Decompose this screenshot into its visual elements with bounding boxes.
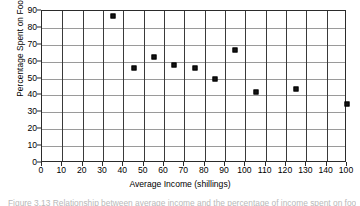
vertical-gridline (123, 11, 124, 161)
vertical-gridline (205, 11, 206, 161)
horizontal-gridline (42, 28, 345, 29)
vertical-gridline (83, 11, 84, 161)
x-axis-tick-mark (143, 162, 144, 166)
x-axis-tick-mark (224, 162, 225, 166)
vertical-gridline (306, 11, 307, 161)
data-point (345, 101, 350, 106)
horizontal-gridline (42, 79, 345, 80)
x-axis-tick-mark (163, 162, 164, 166)
vertical-gridline (144, 11, 145, 161)
data-point (172, 63, 177, 68)
x-axis-tick-mark (204, 162, 205, 166)
x-axis-tick-mark (305, 162, 306, 166)
data-point (192, 66, 197, 71)
vertical-gridline (62, 11, 63, 161)
horizontal-gridline (42, 129, 345, 130)
data-point (131, 66, 136, 71)
vertical-gridline (103, 11, 104, 161)
y-axis-tick-mark (37, 10, 41, 11)
data-point (294, 86, 299, 91)
data-point (111, 14, 116, 19)
x-axis-tick-mark (82, 162, 83, 166)
vertical-gridline (225, 11, 226, 161)
y-axis-tick-mark (37, 111, 41, 112)
y-axis-tick-label: 40 (17, 90, 37, 99)
data-point (212, 76, 217, 81)
horizontal-gridline (42, 112, 345, 113)
plot-area (41, 10, 346, 162)
data-point (253, 90, 258, 95)
y-axis-tick-mark (37, 26, 41, 27)
vertical-gridline (266, 11, 267, 161)
x-axis-tick-mark (285, 162, 286, 166)
y-axis-tick-label: 0 (17, 158, 37, 167)
horizontal-gridline (42, 95, 345, 96)
figure-caption: Figure 3.13 Relationship between average… (8, 198, 356, 206)
x-axis-tick-mark (61, 162, 62, 166)
data-point (151, 54, 156, 59)
scatter-plot-figure: Percentage Spent on Food Average Income … (0, 0, 360, 206)
vertical-gridline (327, 11, 328, 161)
y-axis-tick-label: 90 (17, 6, 37, 15)
horizontal-gridline (42, 45, 345, 46)
x-axis-title: Average Income (shillings) (0, 179, 360, 189)
x-axis-tick-mark (122, 162, 123, 166)
x-axis-tick-label: 100 (333, 166, 359, 175)
y-axis-tick-label: 70 (17, 39, 37, 48)
x-axis-tick-mark (183, 162, 184, 166)
vertical-gridline (286, 11, 287, 161)
y-axis-tick-mark (37, 145, 41, 146)
y-axis-tick-label: 20 (17, 124, 37, 133)
x-axis-tick-mark (41, 162, 42, 166)
vertical-gridline (164, 11, 165, 161)
x-axis-tick-mark (346, 162, 347, 166)
data-point (233, 47, 238, 52)
y-axis-tick-mark (37, 94, 41, 95)
x-axis-tick-mark (326, 162, 327, 166)
y-axis-tick-label: 80 (17, 23, 37, 32)
y-axis-tick-label: 10 (17, 141, 37, 150)
y-axis-tick-mark (37, 60, 41, 61)
y-axis-tick-label: 30 (17, 107, 37, 116)
y-axis-tick-mark (37, 43, 41, 44)
x-axis-tick-mark (265, 162, 266, 166)
vertical-gridline (184, 11, 185, 161)
horizontal-gridline (42, 62, 345, 63)
x-axis-tick-mark (244, 162, 245, 166)
vertical-gridline (245, 11, 246, 161)
horizontal-gridline (42, 146, 345, 147)
y-axis-tick-label: 60 (17, 56, 37, 65)
y-axis-tick-mark (37, 128, 41, 129)
y-axis-tick-label: 50 (17, 73, 37, 82)
x-axis-tick-mark (102, 162, 103, 166)
y-axis-tick-mark (37, 77, 41, 78)
